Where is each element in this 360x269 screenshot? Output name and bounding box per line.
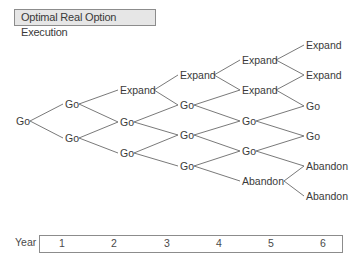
tree-edge [256,151,304,166]
tree-node-go: Go [242,145,256,157]
tree-node-expand: Expand [120,84,156,96]
tree-edge [30,121,63,138]
tree-edge [194,135,240,151]
tree-edge [276,45,304,60]
tree-edge [30,104,63,121]
tree-edge [134,135,178,153]
tree-node-go: Go [306,130,320,142]
tree-node-expand: Expand [242,84,278,96]
tree-node-abandon: Abandon [306,160,348,172]
year-5: 5 [261,237,281,249]
decision-tree: GoGoGoExpandGoGoExpandGoGoGoExpandExpand… [0,0,360,230]
tree-edge [79,90,118,104]
tree-edge [276,90,304,106]
tree-node-go: Go [306,100,320,112]
tree-edge [276,75,304,90]
tree-edge [214,75,240,90]
tree-edge [154,90,178,105]
tree-edge [284,181,304,196]
tree-edge [284,166,304,181]
year-4: 4 [209,237,229,249]
tree-edge [256,106,304,121]
tree-node-abandon: Abandon [242,175,284,187]
tree-node-go: Go [65,132,79,144]
tree-edges [30,45,304,196]
tree-node-expand: Expand [242,54,278,66]
tree-node-go: Go [242,115,256,127]
tree-edge [79,138,118,153]
tree-node-expand: Expand [306,69,342,81]
tree-node-expand: Expand [180,69,216,81]
tree-node-go: Go [180,160,194,172]
tree-node-go: Go [180,99,194,111]
tree-edge [214,60,240,75]
year-2: 2 [104,237,124,249]
year-axis-bar: 1 2 3 4 5 6 [39,235,343,253]
year-axis-label: Year [15,236,36,248]
year-3: 3 [157,237,177,249]
year-6: 6 [313,237,333,249]
tree-node-go: Go [16,115,30,127]
tree-edge [79,104,118,122]
tree-edge [79,122,118,138]
tree-edge [194,121,240,135]
tree-edge [134,153,178,166]
tree-edge [194,166,240,181]
tree-edge [134,105,178,122]
tree-nodes: GoGoGoExpandGoGoExpandGoGoGoExpandExpand… [16,39,348,202]
year-1: 1 [52,237,72,249]
tree-node-abandon: Abandon [306,190,348,202]
tree-edge [256,136,304,151]
tree-edge [194,105,240,121]
tree-edge [134,122,178,135]
tree-node-go: Go [65,98,79,110]
tree-edge [276,60,304,75]
tree-node-go: Go [120,116,134,128]
tree-node-go: Go [120,147,134,159]
tree-node-go: Go [180,129,194,141]
tree-edge [194,151,240,166]
tree-node-expand: Expand [306,39,342,51]
tree-edge [154,75,178,90]
tree-edge [194,90,240,105]
tree-edge [256,121,304,136]
